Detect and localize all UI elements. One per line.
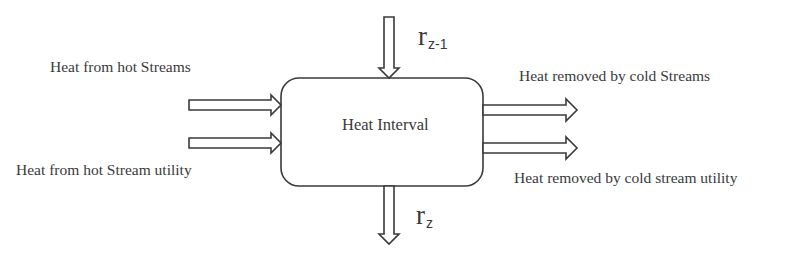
residual-out-symbol: rz xyxy=(416,202,433,230)
heat-interval-diagram: Heat Interval Heat from hot Streams Heat… xyxy=(0,0,807,255)
arrow-out-cold-utility-icon xyxy=(483,137,577,159)
residual-out-letter: r xyxy=(416,200,425,230)
arrow-out-cold-streams-icon xyxy=(483,99,577,121)
residual-in-symbol: rz-1 xyxy=(418,23,447,51)
arrow-in-residual-top-icon xyxy=(379,17,399,78)
residual-in-subscript: z-1 xyxy=(428,36,447,52)
arrow-in-hot-streams-icon xyxy=(189,95,281,115)
output-label-cold-streams: Heat removed by cold Streams xyxy=(519,68,710,84)
residual-in-letter: r xyxy=(418,21,427,51)
input-label-hot-utility: Heat from hot Stream utility xyxy=(16,162,192,178)
arrow-out-residual-bottom-icon xyxy=(379,186,399,244)
input-label-hot-streams: Heat from hot Streams xyxy=(50,59,191,75)
heat-interval-label: Heat Interval xyxy=(342,117,429,134)
arrow-in-hot-utility-icon xyxy=(189,133,281,153)
residual-out-subscript: z xyxy=(426,215,433,231)
output-label-cold-utility: Heat removed by cold stream utility xyxy=(514,170,737,186)
